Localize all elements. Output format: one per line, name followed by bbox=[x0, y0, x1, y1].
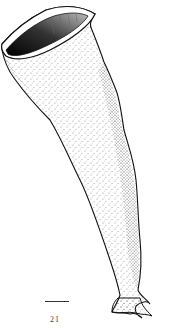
scale-bar bbox=[45, 301, 69, 302]
sponge-illustration bbox=[0, 0, 178, 333]
figure-number: 21 bbox=[50, 315, 60, 324]
